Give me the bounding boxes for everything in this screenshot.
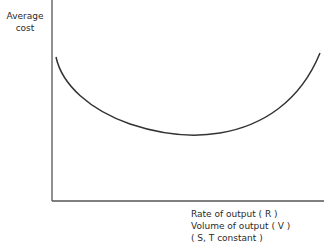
x-axis-label: Rate of output ( R ) Volume of output ( … — [191, 208, 290, 244]
x-axis-label-line2: Volume of output ( V ) — [191, 220, 290, 232]
y-axis-label-line1: Average — [0, 10, 50, 22]
x-axis-label-line1: Rate of output ( R ) — [191, 208, 290, 220]
y-axis-label: Average cost — [0, 10, 50, 34]
average-cost-curve — [56, 53, 320, 135]
x-axis-label-line3: ( S, T constant ) — [191, 232, 290, 244]
y-axis-label-line2: cost — [0, 22, 50, 34]
